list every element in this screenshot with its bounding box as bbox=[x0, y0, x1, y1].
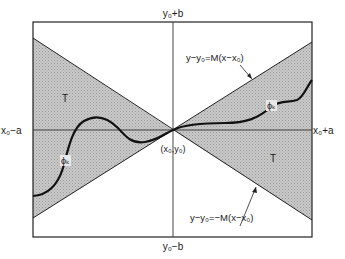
label-region-t-right: T bbox=[270, 153, 276, 164]
label-center-point: (x₀,y₀) bbox=[161, 144, 186, 154]
label-lower-line-equation: y−y₀=−M(x−x₀) bbox=[190, 212, 253, 223]
label-top-bound: y₀+b bbox=[163, 8, 184, 19]
region-t-right bbox=[173, 42, 312, 220]
label-upper-line-equation: y−y₀=M(x−x₀) bbox=[186, 52, 244, 63]
label-left-bound: x₀−a bbox=[1, 125, 22, 136]
label-curve-right: ϕₖ bbox=[267, 101, 276, 111]
region-t-left bbox=[33, 38, 173, 218]
label-right-bound: x₀+a bbox=[313, 125, 334, 136]
label-region-t-left: T bbox=[62, 93, 68, 104]
label-curve-left: ϕₖ bbox=[61, 156, 70, 166]
diagram-canvas: y₀+b y₀−b x₀−a x₀+a (x₀,y₀) T T ϕₖ ϕₖ y−… bbox=[0, 0, 345, 259]
lower-eq-arrowhead-icon bbox=[252, 187, 257, 193]
label-bottom-bound: y₀−b bbox=[163, 241, 184, 252]
